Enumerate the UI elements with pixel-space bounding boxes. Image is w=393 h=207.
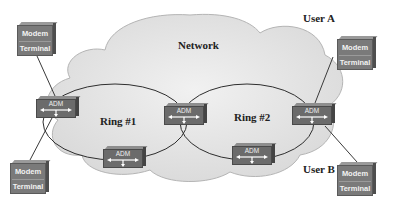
modem-label: Modem (337, 43, 373, 52)
adm-ring2-right: ADM (292, 103, 336, 125)
adm-side-face (272, 144, 275, 163)
endpoint-top-left: Modem Terminal (17, 22, 55, 56)
adm-ring2-bottom: ADM (232, 143, 276, 165)
add-drop-arrow-icon (296, 114, 328, 124)
box-side-face (53, 23, 56, 54)
adm-shared: ADM (164, 103, 208, 125)
adm-label: ADM (164, 107, 204, 114)
adm-side-face (332, 104, 335, 123)
user-b-label: User B (303, 163, 335, 175)
ring-1-label: Ring #1 (100, 115, 136, 127)
endpoint-user-a: Modem Terminal (337, 36, 375, 70)
terminal-label: Terminal (10, 182, 46, 191)
adm-side-face (143, 147, 146, 166)
modem-label: Modem (337, 169, 373, 178)
ring-2-label: Ring #2 (234, 111, 270, 123)
add-drop-arrow-icon (168, 114, 200, 124)
terminal-label: Terminal (17, 44, 53, 53)
divider (339, 55, 371, 56)
adm-ring1-bottom: ADM (103, 146, 147, 168)
divider (19, 41, 51, 42)
box-side-face (46, 161, 49, 192)
link-top-left (37, 56, 55, 96)
network-label: Network (178, 39, 219, 51)
adm-label: ADM (292, 107, 332, 114)
user-a-label: User A (303, 12, 335, 24)
link-bottom-left (30, 118, 52, 160)
add-drop-arrow-icon (236, 154, 268, 164)
terminal-label: Terminal (337, 58, 373, 67)
terminal-label: Terminal (337, 184, 373, 193)
divider (12, 179, 44, 180)
adm-ring1-left: ADM (36, 96, 80, 118)
adm-side-face (76, 97, 79, 116)
divider (339, 181, 371, 182)
modem-label: Modem (10, 167, 46, 176)
add-drop-arrow-icon (107, 157, 139, 167)
link-user-b (325, 126, 357, 162)
endpoint-bottom-left: Modem Terminal (10, 160, 48, 194)
adm-side-face (204, 104, 207, 123)
endpoint-user-b: Modem Terminal (337, 162, 375, 196)
box-side-face (373, 37, 376, 68)
box-side-face (373, 163, 376, 194)
adm-label: ADM (103, 150, 143, 157)
add-drop-arrow-icon (40, 107, 72, 117)
modem-label: Modem (17, 29, 53, 38)
sonet-ring-diagram: Network User A Ring #1 Ring #2 User B Mo… (0, 0, 393, 207)
adm-label: ADM (232, 147, 272, 154)
adm-label: ADM (36, 100, 76, 107)
